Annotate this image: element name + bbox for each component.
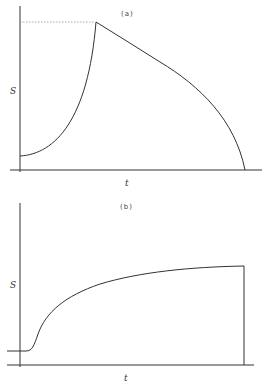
panel-b-curve [7, 266, 244, 365]
panel-a-x-label: t [125, 178, 129, 188]
panel-b: (b) S t [7, 203, 254, 383]
panel-b-y-label: S [10, 280, 16, 290]
panel-a: (a) S t [10, 6, 262, 188]
figure: (a) S t (b) S t [0, 0, 265, 386]
panel-a-title: (a) [121, 10, 134, 18]
panel-a-y-label: S [10, 86, 16, 96]
panel-b-title: (b) [120, 203, 133, 211]
panel-a-curve [20, 22, 245, 170]
panel-b-x-label: t [124, 373, 128, 383]
